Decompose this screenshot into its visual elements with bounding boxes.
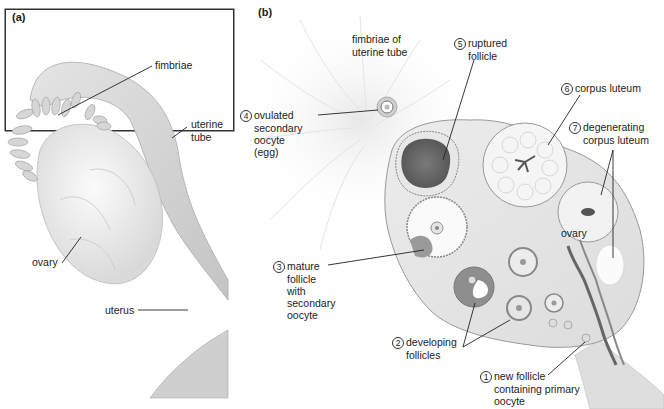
panel-a-tag: (a) — [12, 11, 25, 23]
stage-3-label: 3mature follicle with secondary oocyte — [273, 260, 335, 321]
panel-a-illustration — [5, 9, 234, 398]
panel-b-tag: (b) — [258, 6, 272, 18]
label-uterus: uterus — [105, 304, 134, 316]
stage-7-label: 7degenerating corpus luteum — [569, 121, 649, 146]
stage-1-label: 1new follicle containing primary oocyte — [480, 370, 580, 407]
label-ovary-a: ovary — [32, 256, 58, 268]
stage-number-icon: 4 — [240, 110, 252, 122]
illustration — [0, 0, 664, 409]
label-ovary-b: ovary — [561, 227, 587, 239]
label-fimbriae: fimbriae — [155, 59, 192, 71]
stage-number-icon: 2 — [392, 337, 404, 349]
stage-5-label: 5ruptured follicle — [454, 37, 507, 62]
stage-number-icon: 5 — [454, 38, 466, 50]
label-fimbriae-uterine-tube-1: fimbriae of — [352, 33, 401, 45]
stage-number-icon: 6 — [561, 83, 573, 95]
stage-6-label: 6corpus luteum — [561, 82, 641, 95]
stage-number-icon: 7 — [569, 122, 581, 134]
stage-4-label: 4ovulated secondary oocyte (egg) — [240, 109, 302, 158]
label-uterine-tube-2: tube — [191, 131, 211, 143]
stage-number-icon: 3 — [273, 261, 285, 273]
stage-2-label: 2developing follicles — [392, 336, 457, 361]
label-uterine-tube-1: uterine — [191, 118, 223, 130]
stage-number-icon: 1 — [480, 371, 492, 383]
label-fimbriae-uterine-tube-2: uterine tube — [352, 46, 407, 58]
